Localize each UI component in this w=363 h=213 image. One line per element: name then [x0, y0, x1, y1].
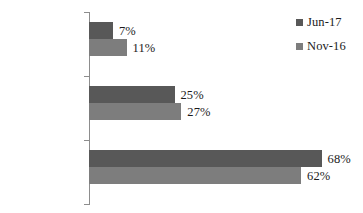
chart-legend: Jun-17 Nov-16 [296, 14, 346, 62]
bar-nov-16-active-users[interactable] [89, 167, 301, 184]
bar-jun-17-potential-users[interactable] [89, 86, 175, 103]
bar-chart: Non users 7% 11% Potential users 25% 27%… [0, 0, 363, 213]
axis-tick [84, 12, 89, 13]
bar-nov-16-non-users[interactable] [89, 39, 127, 56]
bar-value-label: 27% [187, 104, 210, 119]
legend-label: Nov-16 [307, 39, 346, 54]
bar-value-label: 62% [307, 168, 330, 183]
bar-value-label: 68% [328, 151, 351, 166]
legend-item-nov-16[interactable]: Nov-16 [296, 38, 346, 55]
bar-value-label: 7% [119, 23, 136, 38]
bar-value-label: 11% [133, 40, 156, 55]
axis-tick [84, 140, 89, 141]
bar-value-label: 25% [181, 87, 204, 102]
axis-tick [84, 76, 89, 77]
legend-label: Jun-17 [307, 15, 342, 30]
legend-swatch-icon [296, 19, 303, 26]
bar-nov-16-potential-users[interactable] [89, 103, 181, 120]
legend-item-jun-17[interactable]: Jun-17 [296, 14, 346, 31]
axis-tick [84, 204, 89, 205]
bar-jun-17-non-users[interactable] [89, 22, 113, 39]
legend-swatch-icon [296, 43, 303, 50]
bar-jun-17-active-users[interactable] [89, 150, 322, 167]
